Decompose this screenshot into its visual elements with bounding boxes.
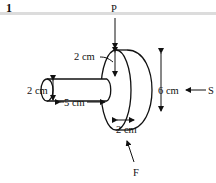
cylinder-diagram: P 2 cm 2 cm 5 cm 6 cm S 2 cm F <box>0 0 216 183</box>
force-f-arrow <box>127 141 134 162</box>
rod-length-label: 5 cm <box>64 97 85 108</box>
disc-diameter-label: 6 cm <box>158 85 179 96</box>
force-s-label: S <box>208 85 214 96</box>
force-p-label: P <box>111 3 117 14</box>
disc-thickness-label: 2 cm <box>116 124 137 135</box>
collar-step-label: 2 cm <box>74 51 95 62</box>
force-f-label: F <box>133 167 139 178</box>
disc <box>101 50 152 130</box>
rod-diameter-label: 2 cm <box>27 85 48 96</box>
